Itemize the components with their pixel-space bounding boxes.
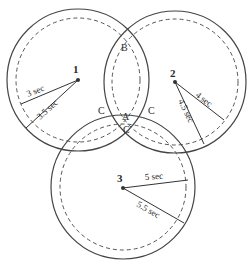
circle-2-inner-time-label: 4 sec (194, 90, 215, 109)
circle-3-label: 3 (117, 172, 123, 184)
circle-3: 3 5 sec 5.5 sec (51, 115, 195, 259)
point-a-label: A (122, 111, 130, 122)
circle-1-label: 1 (73, 63, 79, 75)
trilateration-diagram: 1 3 sec 3.5 sec 2 4 sec 4.5 sec 3 5 sec … (0, 0, 252, 265)
point-b-label: B (121, 42, 128, 53)
point-c-left-label: C (98, 105, 105, 116)
point-c-right-label: C (148, 105, 155, 116)
circle-1-inner-time-label: 3 sec (25, 83, 46, 99)
circle-3-inner-time-label: 5 sec (144, 171, 163, 182)
circle-1-outer-time-label: 3.5 sec (35, 97, 60, 121)
circle-3-center-dot (121, 186, 125, 190)
circle-2-outer-time-label: 4.5 sec (176, 97, 196, 124)
circle-2-label: 2 (170, 67, 176, 79)
circle-2-center-dot (173, 80, 177, 84)
circle-1-center-dot (76, 78, 80, 82)
point-c-bottom-label: C (123, 124, 130, 135)
